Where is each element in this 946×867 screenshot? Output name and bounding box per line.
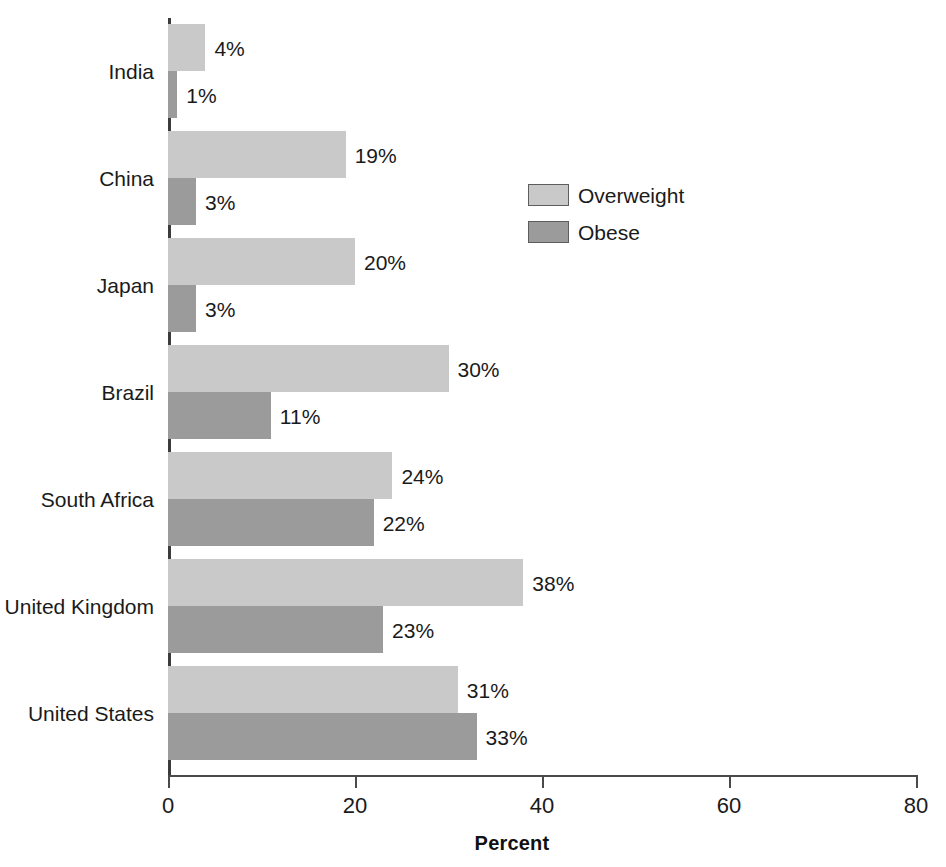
x-tick-mark [729,775,731,788]
legend-label: Overweight [578,185,684,206]
bar [168,499,374,546]
category-label: India [108,61,154,82]
x-axis-title-text: Percent [475,832,550,854]
category-label: South Africa [41,489,154,510]
category-label: Japan [97,275,154,296]
bar [168,131,346,178]
x-tick-mark [355,775,357,788]
bar-value-label: 33% [486,727,528,748]
bar [168,345,449,392]
bar-value-label: 20% [364,252,406,273]
bar-chart: 4%1%19%3%20%3%30%11%24%22%38%23%31%33% I… [0,0,946,867]
x-tick-label: 20 [343,795,367,817]
bar-value-label: 31% [467,680,509,701]
bar-value-label: 4% [214,38,244,59]
x-tick-mark [916,775,918,788]
bar [168,24,205,71]
bar-value-label: 38% [532,573,574,594]
bar [168,71,177,118]
bar-value-label: 11% [280,406,320,427]
legend-label: Obese [578,222,640,243]
bar [168,452,392,499]
x-tick-label: 40 [530,795,554,817]
legend-swatch [528,184,569,206]
category-label: Brazil [101,382,154,403]
x-tick-label: 0 [162,795,174,817]
category-label: China [99,168,154,189]
legend-item: Obese [528,219,684,245]
x-tick-label: 60 [717,795,741,817]
bar-value-label: 3% [205,192,235,213]
bar [168,238,355,285]
bar [168,285,196,332]
x-tick-label: 80 [904,795,928,817]
bar-value-label: 19% [355,145,397,166]
x-tick-mark [542,775,544,788]
x-tick-mark [168,775,170,788]
x-axis-title: Percent [0,832,946,855]
bar-value-label: 3% [205,299,235,320]
bar-value-label: 24% [401,466,443,487]
bar [168,713,477,760]
bar-value-label: 1% [186,85,216,106]
legend: OverweightObese [528,182,684,256]
bar [168,666,458,713]
bar-value-label: 23% [392,620,434,641]
bar-value-label: 22% [383,513,425,534]
bar [168,559,523,606]
category-label: United States [28,703,154,724]
bar [168,606,383,653]
category-label: United Kingdom [5,596,154,617]
legend-swatch [528,221,569,243]
legend-item: Overweight [528,182,684,208]
bar [168,392,271,439]
bar [168,178,196,225]
bar-value-label: 30% [458,359,500,380]
